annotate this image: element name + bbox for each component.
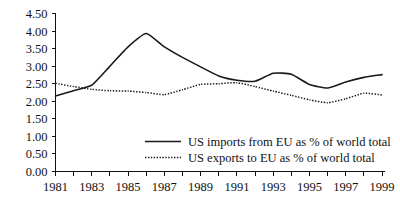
x-tick-label: 1985: [116, 180, 141, 194]
y-tick-marks: [52, 14, 56, 172]
x-tick-label: 1989: [188, 180, 213, 194]
y-tick-label: 1.00: [26, 130, 48, 144]
line-chart: 0.000.501.001.502.002.503.003.504.004.50…: [0, 0, 400, 208]
x-tick-label: 1999: [370, 180, 395, 194]
x-tick-label: 1981: [43, 180, 68, 194]
y-axis-group: 0.000.501.001.502.002.503.003.504.004.50: [26, 7, 56, 179]
y-tick-labels: 0.000.501.001.502.002.503.003.504.004.50: [26, 7, 48, 179]
y-tick-label: 3.00: [26, 60, 48, 74]
y-tick-label: 4.00: [26, 25, 48, 39]
chart-legend: US imports from EU as % of world total U…: [145, 135, 391, 165]
legend-label-exports: US exports to EU as % of world total: [188, 151, 375, 165]
x-tick-marks: [56, 172, 383, 176]
y-tick-label: 4.50: [26, 7, 48, 21]
x-tick-label: 1997: [333, 180, 358, 194]
y-tick-label: 0.50: [26, 147, 48, 161]
x-tick-label: 1993: [261, 180, 286, 194]
y-tick-label: 2.00: [26, 95, 48, 109]
x-tick-label: 1995: [297, 180, 322, 194]
legend-label-imports: US imports from EU as % of world total: [188, 135, 391, 149]
x-tick-label: 1987: [152, 180, 177, 194]
series-line-us-imports: [56, 34, 383, 97]
x-tick-label: 1983: [79, 180, 104, 194]
y-tick-label: 3.50: [26, 42, 48, 56]
x-axis-group: 1981198319851987198919911993199519971999: [43, 172, 395, 194]
y-tick-label: 2.50: [26, 77, 48, 91]
x-tick-labels: 1981198319851987198919911993199519971999: [43, 180, 395, 194]
y-tick-label: 1.50: [26, 112, 48, 126]
y-tick-label: 0.00: [26, 165, 48, 179]
x-tick-label: 1991: [224, 180, 249, 194]
plot-series-group: [56, 34, 383, 103]
chart-canvas: 0.000.501.001.502.002.503.003.504.004.50…: [0, 0, 400, 208]
